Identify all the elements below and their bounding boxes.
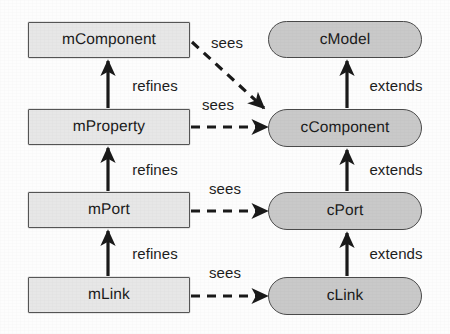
node-label: cLink: [327, 287, 364, 305]
edge-label-refines-1: refines: [132, 77, 178, 94]
node-mport[interactable]: mPort: [28, 192, 190, 228]
edge-label-refines-3: refines: [132, 245, 178, 262]
diagram-canvas: mComponent mProperty mPort mLink cModel …: [0, 0, 450, 334]
edge-label-sees-2: sees: [202, 96, 234, 113]
node-cport[interactable]: cPort: [268, 192, 422, 230]
node-clink[interactable]: cLink: [268, 277, 422, 315]
edge-label-sees-4: sees: [209, 264, 241, 281]
node-label: cPort: [327, 202, 364, 220]
edge-label-extends-2: extends: [369, 161, 422, 178]
node-cmodel[interactable]: cModel: [268, 21, 422, 58]
edge-label-sees-3: sees: [209, 180, 241, 197]
edge-label-sees-1: sees: [211, 34, 243, 51]
node-label: mPort: [88, 201, 130, 219]
node-ccomponent[interactable]: cComponent: [268, 109, 422, 147]
node-label: mProperty: [73, 118, 145, 136]
node-label: mLink: [88, 286, 130, 304]
edge-label-refines-2: refines: [132, 161, 178, 178]
node-label: cModel: [320, 31, 371, 49]
edge-label-extends-1: extends: [369, 77, 422, 94]
edge-label-extends-3: extends: [369, 245, 422, 262]
node-label: mComponent: [62, 31, 156, 49]
node-label: cComponent: [301, 119, 390, 137]
node-mproperty[interactable]: mProperty: [28, 109, 190, 145]
node-mlink[interactable]: mLink: [28, 277, 190, 313]
node-mcomponent[interactable]: mComponent: [28, 22, 190, 58]
